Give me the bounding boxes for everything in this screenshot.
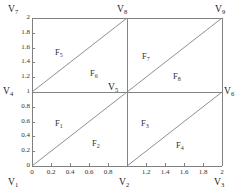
xtick-label-14: 1.4 <box>156 169 174 176</box>
ytick-label-04: 0.4 <box>12 132 30 139</box>
edge-v1-v5 <box>32 92 127 166</box>
edge-v5-v9 <box>127 18 222 92</box>
ytick-label-08: 0.8 <box>12 103 30 110</box>
ytick-label-1: 1 <box>16 88 30 95</box>
xtick-label-12: 1.2 <box>137 169 155 176</box>
xtick-label-06: 0.6 <box>80 169 98 176</box>
ytick-label-16: 1.6 <box>12 44 30 51</box>
ytick-label-2: 2 <box>16 14 30 21</box>
xtick-label-2: 2 <box>214 169 230 176</box>
xtick-label-08: 0.8 <box>99 169 117 176</box>
xtick-label-18: 1.8 <box>194 169 212 176</box>
ytick-label-06: 0.6 <box>12 118 30 125</box>
mesh-svg <box>0 0 247 195</box>
ytick-label-02: 0.2 <box>12 147 30 154</box>
edge-v4-v8 <box>32 18 127 92</box>
xtick-label-04: 0.4 <box>61 169 79 176</box>
mesh-figure: 0 0.2 0.4 0.6 0.8 1 1.2 1.4 1.6 1.8 2 0 … <box>0 0 247 195</box>
xtick-label-16: 1.6 <box>175 169 193 176</box>
ytick-label-12: 1.2 <box>12 73 30 80</box>
ytick-label-0: 0 <box>16 162 30 169</box>
ytick-label-18: 1.8 <box>12 29 30 36</box>
ytick-label-14: 1.4 <box>12 58 30 65</box>
xtick-label-0: 0 <box>24 169 40 176</box>
edge-v2-v6 <box>127 92 222 166</box>
xtick-label-02: 0.2 <box>42 169 60 176</box>
